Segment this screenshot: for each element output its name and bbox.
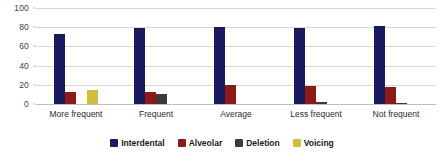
bar xyxy=(87,90,98,104)
axis-baseline xyxy=(36,104,436,105)
legend-label: Interdental xyxy=(121,138,164,148)
legend-label: Alveolar xyxy=(189,138,223,148)
bar xyxy=(294,28,305,104)
legend-swatch-icon xyxy=(235,139,243,147)
bar xyxy=(225,85,236,104)
legend-item[interactable]: Interdental xyxy=(110,138,164,148)
bar xyxy=(65,92,76,104)
bar xyxy=(374,26,385,104)
bar xyxy=(316,102,327,104)
legend-item[interactable]: Deletion xyxy=(235,138,280,148)
x-tick-label: Not frequent xyxy=(356,106,436,124)
bar-group-bars xyxy=(356,8,436,104)
bar-groups xyxy=(36,8,436,104)
bar-chart: 020406080100 More frequentFrequentAverag… xyxy=(0,0,444,163)
legend-item[interactable]: Alveolar xyxy=(178,138,223,148)
x-tick-label: Frequent xyxy=(116,106,196,124)
bar xyxy=(134,28,145,104)
x-tick-label: More frequent xyxy=(36,106,116,124)
legend-label: Voicing xyxy=(304,138,334,148)
bar xyxy=(156,94,167,104)
legend-swatch-icon xyxy=(178,139,186,147)
bar-group-bars xyxy=(276,8,356,104)
plot-area xyxy=(36,8,436,104)
legend-label: Deletion xyxy=(246,138,280,148)
bar xyxy=(54,34,65,104)
bar-group xyxy=(356,8,436,104)
bar-group xyxy=(196,8,276,104)
bar xyxy=(385,87,396,104)
bar-group-bars xyxy=(196,8,276,104)
y-axis: 020406080100 xyxy=(0,0,36,112)
legend-item[interactable]: Voicing xyxy=(293,138,334,148)
chart-legend: InterdentalAlveolarDeletionVoicing xyxy=(0,134,444,152)
x-tick-label: Less frequent xyxy=(276,106,356,124)
bar-group xyxy=(116,8,196,104)
bar xyxy=(145,92,156,104)
bar-group-bars xyxy=(116,8,196,104)
y-tick-label: 80 xyxy=(19,22,29,32)
bar-group xyxy=(36,8,116,104)
bar-group-bars xyxy=(36,8,116,104)
y-tick-label: 0 xyxy=(24,99,29,109)
x-tick-label: Average xyxy=(196,106,276,124)
x-axis: More frequentFrequentAverageLess frequen… xyxy=(36,106,436,124)
bar-group xyxy=(276,8,356,104)
y-tick-label: 60 xyxy=(19,41,29,51)
y-tick-label: 100 xyxy=(14,3,29,13)
legend-swatch-icon xyxy=(293,139,301,147)
legend-swatch-icon xyxy=(110,139,118,147)
bar xyxy=(305,86,316,104)
bar xyxy=(214,27,225,104)
y-tick-label: 20 xyxy=(19,80,29,90)
y-tick-label: 40 xyxy=(19,61,29,71)
bar xyxy=(396,103,407,104)
